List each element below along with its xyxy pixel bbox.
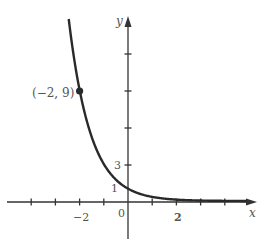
x-axis-label: x	[249, 206, 256, 220]
x-tick-label-2: 2	[174, 211, 182, 224]
y-axis-arrow-icon	[125, 16, 132, 27]
axes	[7, 16, 257, 239]
annotated-point-marker	[76, 87, 83, 94]
y-tick-label-3: 3	[114, 159, 121, 172]
x-axis-arrow-icon	[246, 199, 257, 206]
exponential-curve	[69, 19, 247, 201]
point-label: (−2, 9)	[32, 86, 74, 100]
y-tick-label-1: 1	[111, 182, 118, 195]
y-axis-label: y	[115, 14, 123, 28]
x-tick-label-neg2: −2	[73, 211, 89, 224]
origin-label: 0	[118, 207, 125, 220]
exponential-graph: (−2, 9) y x 0 −2 2 3 1	[0, 0, 274, 249]
